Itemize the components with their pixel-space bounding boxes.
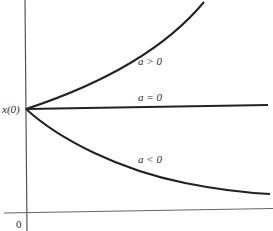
label-growth: a > 0: [138, 55, 162, 67]
y-axis: [25, 0, 27, 231]
diagram-canvas: x(0) 0 a > 0 a = 0 a < 0: [0, 0, 273, 231]
curve-growth: [26, 2, 204, 109]
x-axis: [4, 209, 273, 214]
curve-constant: [26, 105, 268, 109]
y-intercept-label: x(0): [1, 103, 20, 116]
label-constant: a = 0: [138, 91, 162, 103]
curve-decay: [26, 109, 270, 194]
label-decay: a < 0: [138, 153, 162, 165]
origin-label: 0: [16, 218, 22, 230]
